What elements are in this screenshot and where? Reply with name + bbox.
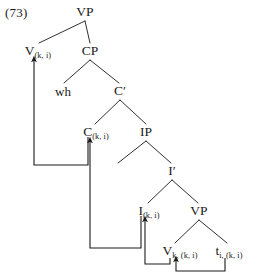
tree-lines-svg xyxy=(0,0,257,279)
tree-branch-cp-to-cbar xyxy=(90,60,119,83)
tree-node-ibar-category: I′ xyxy=(168,163,175,178)
tree-node-i-head-category: I xyxy=(138,203,143,218)
tree-node-v-top-subscript: (k, i) xyxy=(35,51,52,60)
tree-branch-vp-root-to-cp xyxy=(85,21,90,43)
tree-branch-ibar-to-i-head xyxy=(148,180,172,203)
tree-node-vp-lower-category: VP xyxy=(190,203,207,218)
movement-arrow-i-to-c-movement xyxy=(90,140,141,248)
tree-node-v-top: V(k, i) xyxy=(25,44,51,58)
movement-arrow-c-to-v-movement xyxy=(34,59,88,165)
tree-branch-cbar-to-c-head xyxy=(95,100,120,124)
tree-node-vp-root: VP xyxy=(76,5,93,19)
tree-node-c-head-subscript: (k, i) xyxy=(92,132,109,141)
tree-node-c-head-category: C xyxy=(83,124,92,139)
tree-branch-vp-lower-to-v xyxy=(175,220,199,243)
tree-node-wh-category: wh xyxy=(55,84,71,99)
tree-node-ip: IP xyxy=(140,125,152,139)
tree-node-cp-category: CP xyxy=(82,43,99,58)
tree-node-ibar: I′ xyxy=(168,164,175,178)
tree-node-cp: CP xyxy=(82,44,99,58)
tree-node-trace: ti, (k, i) xyxy=(215,244,242,258)
tree-node-i-head: I(k, i) xyxy=(138,204,159,218)
tree-node-v-bottom: Vk, (k, i) xyxy=(162,244,197,258)
tree-branch-vp-lower-to-trace xyxy=(199,220,227,243)
tree-node-v-bottom-subscript: k, (k, i) xyxy=(172,251,197,260)
syntax-tree-figure: (73) VPV(k, i)CPwhC′C(k, i)IPI′I(k, i)VP… xyxy=(0,0,257,279)
tree-node-cbar: C′ xyxy=(114,84,126,98)
tree-node-trace-subscript: i, (k, i) xyxy=(219,251,242,260)
tree-node-wh: wh xyxy=(55,85,71,98)
tree-node-v-top-category: V xyxy=(25,43,35,58)
tree-branch-cp-to-wh xyxy=(64,60,90,83)
tree-branch-ibar-to-vp-lower xyxy=(172,180,198,203)
tree-branch-ip-to-spec xyxy=(118,141,146,163)
tree-branch-vp-root-to-v-top xyxy=(39,21,85,43)
tree-node-v-bottom-category: V xyxy=(162,243,172,258)
tree-node-c-head: C(k, i) xyxy=(83,125,109,139)
tree-branch-ip-to-ibar xyxy=(146,141,171,163)
tree-node-vp-root-category: VP xyxy=(76,4,93,19)
tree-branch-cbar-to-ip xyxy=(120,100,146,124)
tree-node-ip-category: IP xyxy=(140,124,152,139)
tree-node-cbar-category: C′ xyxy=(114,83,126,98)
tree-node-vp-lower: VP xyxy=(190,204,207,218)
tree-node-i-head-subscript: (k, i) xyxy=(143,211,160,220)
